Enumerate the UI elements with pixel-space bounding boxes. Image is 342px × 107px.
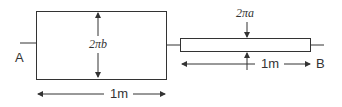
conductor-diagram: A B 2πb 2πa 1m 1m bbox=[0, 0, 342, 107]
narrow-height-label: 2πa bbox=[236, 6, 254, 20]
wide-length-label: 1m bbox=[110, 86, 128, 101]
narrow-conductor-rect bbox=[181, 39, 311, 52]
terminal-b-label: B bbox=[316, 56, 325, 71]
narrow-length-label: 1m bbox=[261, 56, 279, 71]
terminal-a-label: A bbox=[15, 50, 24, 65]
wide-height-label: 2πb bbox=[89, 37, 107, 51]
